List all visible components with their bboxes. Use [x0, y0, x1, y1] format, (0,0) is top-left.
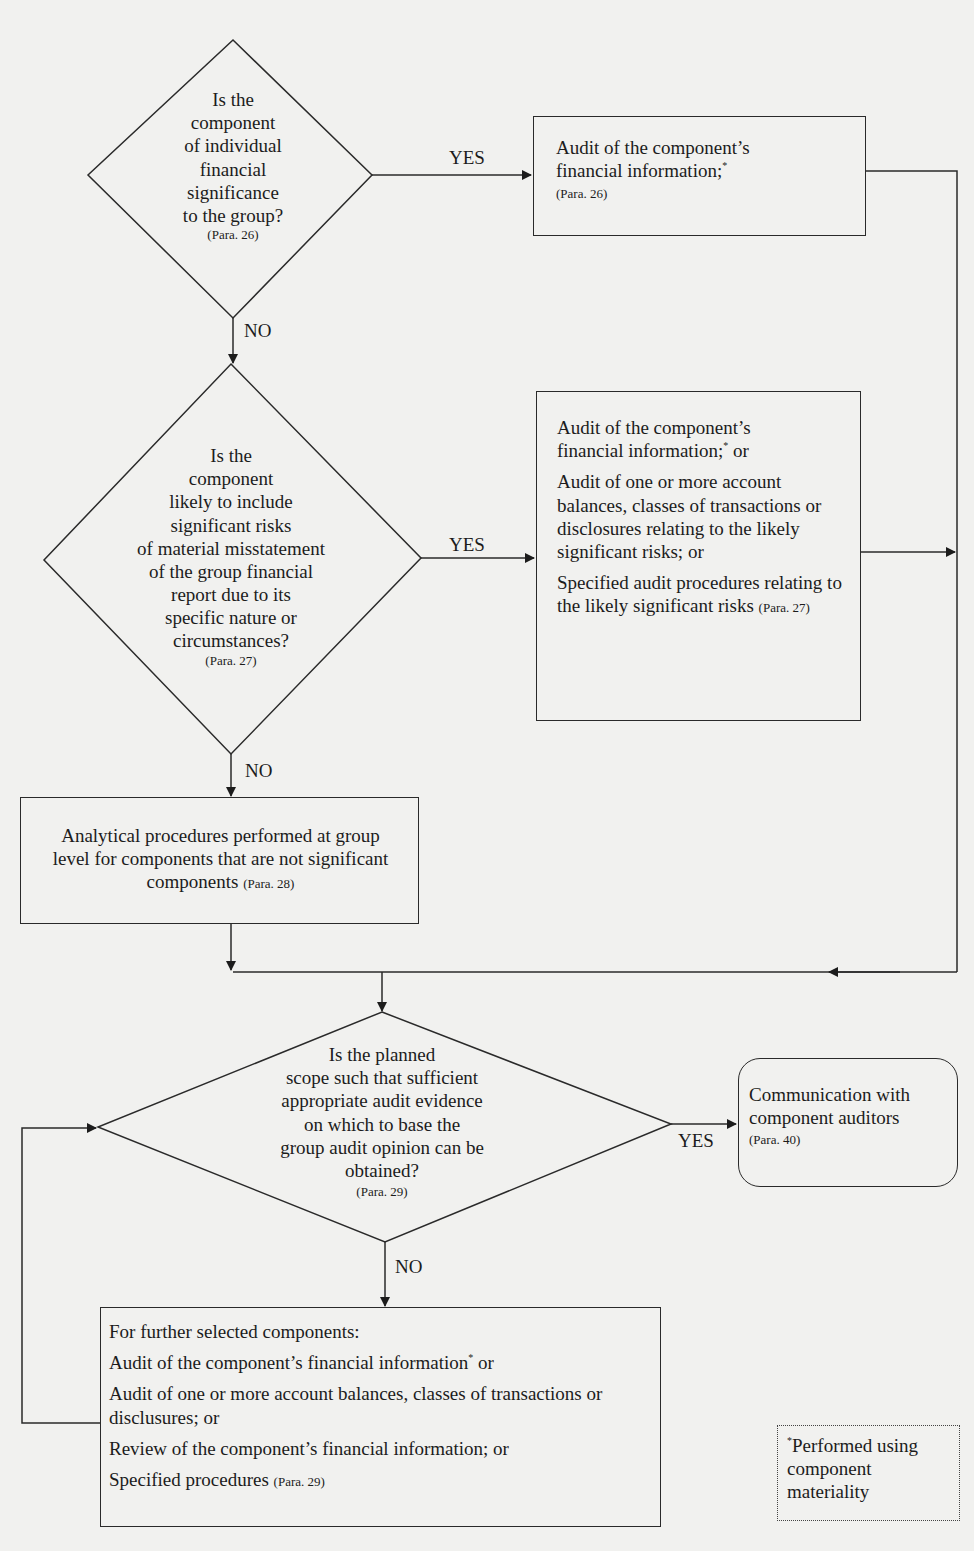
box-5-item-1-text: Audit of the component’s financial infor… — [109, 1352, 468, 1373]
box-1-para-ref: (Para. 26) — [556, 186, 856, 202]
yes-label-3: YES — [678, 1130, 714, 1152]
box-4-text: Communication with component auditors (P… — [749, 1083, 954, 1148]
decision-3-line: appropriate audit evidence — [232, 1089, 532, 1112]
box-1-line: Audit of the component’s — [556, 136, 856, 159]
decision-2-line: specific nature or — [96, 606, 366, 629]
box-3-text: Analytical procedures performed at group… — [43, 824, 398, 894]
box-5-item-4: Specified procedures (Para. 29) — [109, 1468, 649, 1491]
decision-1-line: significance — [123, 181, 343, 204]
decision-2-line: of material misstatement — [96, 537, 366, 560]
box-5-item-2: Audit of one or more account balances, c… — [109, 1382, 649, 1428]
box-2-item-2: Audit of one or more account balances, c… — [557, 470, 847, 563]
box-3-para-ref: (Para. 28) — [243, 876, 294, 891]
box-4-body: Communication with component auditors — [749, 1083, 954, 1129]
decision-2-text: Is the component likely to include signi… — [96, 444, 366, 668]
decision-1-text: Is the component of individual financial… — [123, 88, 343, 243]
box-2-item-3: Specified audit procedures relating to t… — [557, 571, 847, 617]
box-5-item-3: Review of the component’s financial info… — [109, 1437, 649, 1460]
no-label-2: NO — [245, 760, 272, 782]
decision-2-para-ref: (Para. 27) — [96, 653, 366, 669]
no-label-1: NO — [244, 320, 271, 342]
box-1-line-text: financial information; — [556, 160, 722, 181]
decision-1-para-ref: (Para. 26) — [123, 227, 343, 243]
footnote-text: *Performed using component materiality — [787, 1434, 957, 1504]
decision-2-line: significant risks — [96, 514, 366, 537]
decision-1-line: to the group? — [123, 204, 343, 227]
box-communication-component-auditors: Communication with component auditors (P… — [738, 1058, 958, 1187]
no-label-3: NO — [395, 1256, 422, 1278]
decision-2-line: likely to include — [96, 490, 366, 513]
box-further-selected-components: For further selected components: Audit o… — [100, 1307, 661, 1527]
box-significant-risk-procedures: Audit of the component’s financial infor… — [536, 391, 861, 721]
box-2-item-1-line: Audit of the component’s — [557, 416, 847, 439]
box-2-item-1-line: financial information;* or — [557, 439, 847, 462]
decision-3-line: group audit opinion can be — [232, 1136, 532, 1159]
footnote-mark: * — [722, 160, 727, 171]
decision-1-line: Is the — [123, 88, 343, 111]
group-audit-flowchart: Is the component of individual financial… — [0, 0, 974, 1551]
box-2-item-1-tail: or — [728, 440, 749, 461]
decision-3-line: obtained? — [232, 1159, 532, 1182]
decision-3-para-ref: (Para. 29) — [232, 1184, 532, 1200]
box-analytical-procedures: Analytical procedures performed at group… — [20, 797, 419, 924]
box-4-para-ref: (Para. 40) — [749, 1132, 954, 1148]
box-2-para-ref: (Para. 27) — [759, 600, 810, 615]
box-5-para-ref: (Para. 29) — [274, 1474, 325, 1489]
box-5-item-4-text: Specified procedures — [109, 1469, 269, 1490]
box-5-item-1: Audit of the component’s financial infor… — [109, 1351, 649, 1374]
decision-1-line: component — [123, 111, 343, 134]
decision-2-line: report due to its — [96, 583, 366, 606]
box-3-body: Analytical procedures performed at group… — [53, 825, 389, 892]
decision-2-line: Is the — [96, 444, 366, 467]
decision-3-line: scope such that sufficient — [232, 1066, 532, 1089]
box-5-heading: For further selected components: — [109, 1320, 649, 1343]
box-5-item-1-tail: or — [473, 1352, 494, 1373]
box-audit-component-financial-info: Audit of the component’s financial infor… — [533, 116, 866, 236]
decision-3-text: Is the planned scope such that sufficien… — [232, 1043, 532, 1200]
box-5-text: For further selected components: Audit o… — [109, 1320, 649, 1491]
yes-label-2: YES — [449, 534, 485, 556]
decision-2-line: of the group financial — [96, 560, 366, 583]
footnote-box: *Performed using component materiality — [777, 1425, 960, 1521]
footnote-body: Performed using component materiality — [787, 1435, 918, 1502]
box-2-item-1-text: financial information; — [557, 440, 723, 461]
box-1-line: financial information;* — [556, 159, 856, 182]
yes-label-1: YES — [449, 147, 485, 169]
box-2-text: Audit of the component’s financial infor… — [557, 416, 847, 617]
decision-2-line: component — [96, 467, 366, 490]
decision-1-line: financial — [123, 158, 343, 181]
box-2-item-1: Audit of the component’s financial infor… — [557, 416, 847, 462]
box-1-text: Audit of the component’s financial infor… — [556, 136, 856, 202]
decision-3-line: on which to base the — [232, 1113, 532, 1136]
decision-1-line: of individual — [123, 134, 343, 157]
decision-3-line: Is the planned — [232, 1043, 532, 1066]
decision-2-line: circumstances? — [96, 629, 366, 652]
